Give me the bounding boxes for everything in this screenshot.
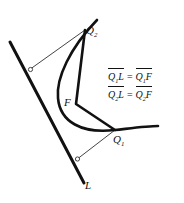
segment-q1-l: Q1L [108, 68, 124, 86]
point-label-q2-subscript: 2 [94, 31, 97, 38]
point-label-q2-text: Q [86, 24, 94, 36]
directrix-label-l: L [85, 180, 91, 191]
perpendicular-segment-q1-to-l [76, 130, 115, 160]
segment-q2-l: Q2L [108, 86, 124, 104]
equations-block: Q1L = Q1F Q2L = Q2F [108, 68, 152, 104]
point-label-q1-subscript: 1 [121, 140, 124, 147]
right-angle-marker-q2 [28, 67, 32, 71]
segment-q2-f: Q2F [136, 86, 152, 104]
point-label-q2: Q2 [86, 25, 97, 39]
point-label-f: F [64, 97, 71, 108]
point-label-q1: Q1 [113, 134, 124, 148]
point-label-q1-text: Q [113, 133, 121, 145]
segment-q1-f: Q1F [136, 68, 152, 86]
equals-sign-2: = [127, 88, 133, 103]
directrix-line-l [10, 42, 84, 183]
equals-sign-1: = [127, 70, 133, 85]
equation-row-2: Q2L = Q2F [108, 86, 152, 104]
equation-row-1: Q1L = Q1F [108, 68, 152, 86]
right-angle-marker-q1 [75, 157, 79, 161]
perpendicular-segment-q2-to-l [29, 30, 85, 70]
